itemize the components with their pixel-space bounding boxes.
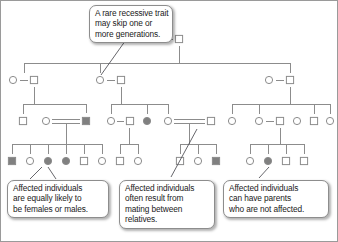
pedigree-symbol-iv-5 — [80, 157, 87, 164]
pedigree-symbol-iv-6 — [98, 157, 105, 164]
pedigree-symbol-iv-4 — [62, 157, 69, 164]
pedigree-symbol-iv-10 — [194, 157, 201, 164]
callout-bm-line-4: relatives. — [125, 214, 209, 224]
pedigree-symbol-iv-14 — [282, 157, 289, 164]
pedigree-symbol-iii-5 — [126, 117, 133, 124]
pedigree-symbol-iv-12 — [246, 157, 253, 164]
pedigree-symbol-iv-11 — [212, 157, 219, 164]
pedigree-connector-lines — [12, 39, 330, 154]
pedigree-symbol-iv-7 — [116, 157, 123, 164]
pedigree-symbol-iii-4 — [107, 117, 114, 124]
callout-consanguinity: Affected individuals often result from m… — [119, 180, 215, 229]
pedigree-symbol-iv-3 — [44, 157, 51, 164]
pedigree-symbols — [8, 35, 333, 164]
pedigree-symbol-iii-11 — [276, 117, 283, 124]
leader-line-bm — [171, 129, 197, 177]
callout-equally-likely: Affected individuals are equally likely … — [7, 180, 109, 218]
pedigree-symbol-iii-2 — [42, 117, 49, 124]
pedigree-symbol-iii-6 — [143, 117, 150, 124]
pedigree-symbol-iii-13 — [310, 117, 317, 124]
pedigree-symbol-ii-2 — [30, 76, 37, 83]
pedigree-symbol-ii-3 — [96, 76, 103, 83]
pedigree-symbol-iv-1 — [8, 157, 15, 164]
pedigree-symbol-iii-7 — [164, 117, 171, 124]
callout-top-line-1: A rare recessive trait — [95, 8, 167, 18]
pedigree-symbol-ii-5 — [265, 76, 272, 83]
pedigree-symbol-iv-8 — [134, 157, 141, 164]
pedigree-symbol-iii-10 — [255, 117, 262, 124]
pedigree-symbol-iii-9 — [228, 117, 235, 124]
callout-bl-line-2: are equally likely to — [13, 193, 103, 203]
leader-line-bl-right — [48, 167, 56, 179]
callout-bm-line-2: often result from — [125, 193, 209, 203]
pedigree-symbol-i-2 — [175, 35, 182, 42]
callout-bl-line-3: be females or males. — [13, 204, 103, 214]
callout-bl-line-1: Affected individuals — [13, 183, 103, 193]
callout-br-line-1: Affected individuals — [229, 183, 323, 193]
pedigree-symbol-ii-1 — [9, 76, 16, 83]
callout-recessive-skip: A rare recessive trait may skip one or m… — [89, 5, 173, 43]
callout-unaffected-parents: Affected individuals can have parents wh… — [223, 180, 329, 218]
callout-bm-line-1: Affected individuals — [125, 183, 209, 193]
pedigree-symbol-iii-3 — [82, 117, 89, 124]
pedigree-symbol-iv-15 — [300, 157, 307, 164]
leader-line-bl-left — [30, 167, 42, 179]
pedigree-symbol-iii-12 — [293, 117, 300, 124]
pedigree-symbol-iv-2 — [26, 157, 33, 164]
pedigree-symbol-iii-14 — [326, 117, 333, 124]
callout-top-line-3: more generations. — [95, 29, 167, 39]
pedigree-symbol-iii-8 — [207, 117, 214, 124]
pedigree-symbol-iv-13 — [264, 157, 271, 164]
leader-line-br — [259, 167, 269, 178]
callout-top-line-2: may skip one or — [95, 18, 167, 28]
callout-bm-line-3: mating between — [125, 204, 209, 214]
pedigree-chart: A rare recessive trait may skip one or m… — [0, 0, 338, 242]
pedigree-symbol-ii-4 — [117, 76, 124, 83]
pedigree-symbol-ii-6 — [286, 76, 293, 83]
pedigree-symbol-iii-1 — [19, 117, 26, 124]
callout-br-line-3: who are not affected. — [229, 204, 323, 214]
callout-br-line-2: can have parents — [229, 193, 323, 203]
